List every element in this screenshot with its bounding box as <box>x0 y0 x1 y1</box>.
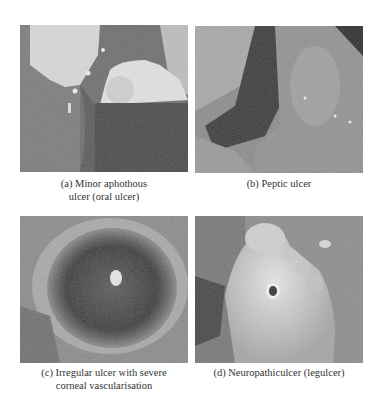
caption-b-line-1: (b) Peptic ulcer <box>184 177 374 190</box>
caption-a-line-2: ulcer (oral ulcer) <box>9 190 199 203</box>
corneal-ulcer-image <box>20 216 188 363</box>
caption-b: (b) Peptic ulcer <box>184 177 374 190</box>
foot-ulcer-image <box>195 216 363 363</box>
caption-a-line-1: (a) Minor aphothous <box>9 177 199 190</box>
panel-a-oral-ulcer-photo <box>20 25 188 172</box>
panel-c-corneal-ulcer-photo <box>20 216 188 363</box>
panel-b-peptic-ulcer-photo <box>195 26 363 173</box>
peptic-ulcer-image <box>195 26 363 173</box>
panel-d-foot-ulcer-photo <box>195 216 363 363</box>
caption-a: (a) Minor aphothous ulcer (oral ulcer) <box>9 177 199 203</box>
oral-ulcer-image <box>20 25 188 172</box>
caption-c-line-1: (c) Irregular ulcer with severe <box>9 366 199 379</box>
caption-d-line-1: (d) Neuropathiculcer (legulcer) <box>184 366 374 379</box>
caption-c-line-2: corneal vascularisation <box>9 379 199 392</box>
caption-d: (d) Neuropathiculcer (legulcer) <box>184 366 374 379</box>
caption-c: (c) Irregular ulcer with severe corneal … <box>9 366 199 392</box>
